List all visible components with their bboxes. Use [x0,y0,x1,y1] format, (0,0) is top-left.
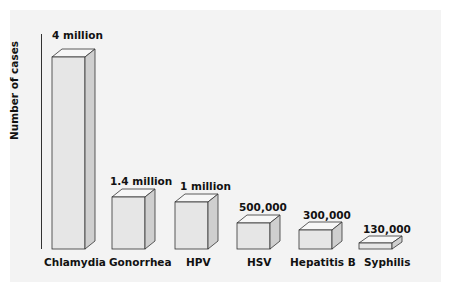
value-label-hpv: 1 million [180,180,231,192]
bar-hpv [175,194,218,249]
category-label-chlamydia: Chlamydia [44,256,106,268]
category-label-syphilis: Syphilis [364,256,410,268]
value-label-syphilis: 130,000 [363,223,411,235]
value-label-hepatitis-b: 300,000 [303,209,351,221]
bar-hsv [237,215,280,249]
category-label-hpv: HPV [186,256,211,268]
value-label-hsv: 500,000 [239,201,287,213]
bar-chlamydia [52,49,95,249]
category-label-hepatitis-b: Hepatitis B [290,256,356,268]
bar-syphilis [359,236,402,249]
category-label-gonorrhea: Gonorrhea [109,256,172,268]
value-label-chlamydia: 4 million [52,29,103,41]
bars-layer [0,0,451,292]
bar-gonorrhea [112,189,155,249]
bar-hepatitis-b [299,222,342,249]
value-label-gonorrhea: 1.4 million [110,175,172,187]
category-label-hsv: HSV [247,256,271,268]
